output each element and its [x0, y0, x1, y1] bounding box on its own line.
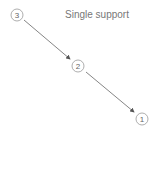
edge-3-to-2 — [24, 20, 70, 59]
node-3: 3 — [11, 9, 23, 21]
edge-2-to-1 — [86, 72, 134, 112]
node-2-label: 2 — [76, 62, 81, 71]
node-1: 1 — [136, 113, 148, 125]
node-3-label: 3 — [15, 11, 20, 20]
node-2: 2 — [72, 60, 84, 72]
node-1-label: 1 — [140, 115, 145, 124]
diagram-canvas: 3 2 1 — [0, 0, 157, 192]
